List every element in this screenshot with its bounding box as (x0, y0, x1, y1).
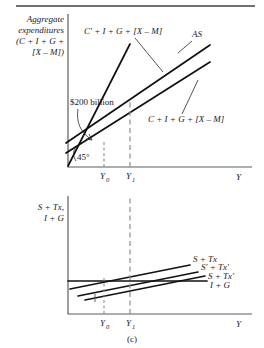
top-chart-xtick-y0-subscript: 0 (106, 176, 110, 183)
label-forty-five-degrees: 45° (77, 152, 90, 162)
top-chart-xaxis-label: Y (236, 172, 242, 182)
top-chart-xtick-y0: Y 0 (100, 171, 110, 183)
bottom-chart-axes (68, 196, 252, 314)
bottom-chart-xaxis-label: Y (236, 319, 242, 329)
top-chart-xtick-y1-subscript: 1 (132, 176, 135, 183)
leader-line-c-curve (182, 80, 198, 114)
label-two-hundred-billion: $200 billion (70, 97, 114, 107)
bottom-chart-yaxis-label-line2: I + G (43, 213, 65, 223)
top-chart-xtick-y1: Y 1 (126, 171, 135, 183)
label-c-prime-curve: C′ + I + G + [X – M] (84, 26, 163, 36)
bottom-chart-xtick-y1-subscript: 1 (132, 323, 135, 330)
top-chart-yaxis-label-line3: (C + I + G + (16, 36, 64, 46)
curve-s-plus-tx-prime (85, 276, 205, 300)
bottom-chart-xtick-y0-subscript: 0 (106, 323, 110, 330)
label-i-plus-g: I + G (209, 280, 231, 290)
leader-line-c-prime-curve (135, 38, 163, 72)
bottom-chart-xtick-y1: Y 1 (126, 318, 135, 330)
label-c-curve: C + I + G + [X – M] (148, 114, 225, 124)
top-chart-yaxis-label-line2: expenditures (18, 25, 64, 35)
saving-investment-chart: S + Tx, I + G S + Tx S′ + Tx′ S + Tx′ I … (38, 196, 252, 330)
label-as-curve: AS (191, 29, 202, 39)
figure-caption: (c) (127, 334, 137, 344)
top-chart-yaxis-label-line1: Aggregate (26, 14, 64, 24)
bottom-chart-xtick-y0: Y 0 (100, 318, 110, 330)
aggregate-expenditures-chart: Aggregate expenditures (C + I + G + [X –… (16, 14, 252, 183)
curve-c-prime-aggregate-expenditures (66, 45, 210, 143)
top-chart-axes (68, 14, 252, 167)
economics-figure-panel-c: Aggregate expenditures (C + I + G + [X –… (0, 0, 264, 348)
bottom-chart-yaxis-label-line1: S + Tx, (38, 202, 64, 212)
top-chart-yaxis-label-line4: [X – M]) (32, 47, 64, 57)
leader-line-as-curve (178, 41, 192, 53)
